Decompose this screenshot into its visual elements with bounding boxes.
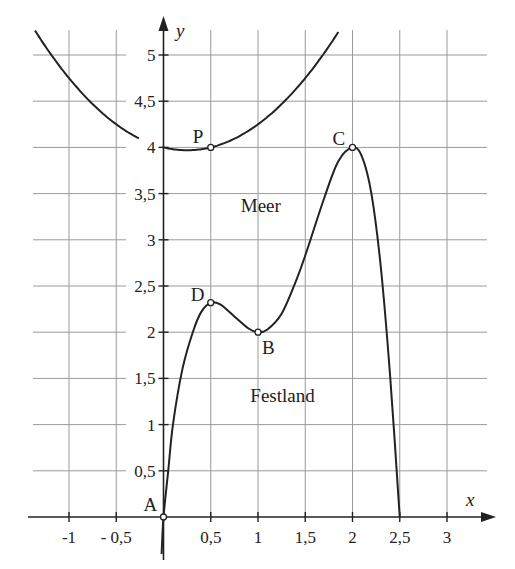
y-axis-arrow-icon (159, 16, 169, 31)
axes (28, 16, 496, 560)
y-tick-label: 4,5 (134, 92, 155, 111)
point-b (255, 329, 261, 335)
y-tick-label: 1,5 (134, 369, 155, 388)
y-tick-label: 5 (147, 46, 156, 65)
y-axis-label: y (174, 20, 185, 41)
x-tick-label: 2 (348, 528, 357, 547)
point-p (208, 144, 214, 150)
x-tick-label: 1 (254, 528, 263, 547)
x-tick-label: 2,5 (389, 528, 410, 547)
x-tick-label: -1 (62, 528, 76, 547)
x-axis-label: x (465, 489, 475, 510)
point-label-p: P (193, 126, 204, 147)
point-label-c: C (333, 128, 346, 149)
labels: -1- 0,50,511,522,530,511,522,533,544,55x… (62, 20, 475, 547)
y-tick-label: 3 (147, 231, 156, 250)
coordinate-diagram: -1- 0,50,511,522,530,511,522,533,544,55x… (0, 0, 515, 569)
point-label-b: B (262, 337, 275, 358)
x-tick-label: 3 (443, 528, 452, 547)
point-d (208, 300, 214, 306)
region-label-meer: Meer (241, 195, 282, 216)
point-c (350, 144, 356, 150)
y-tick-label: 2 (147, 323, 156, 342)
grid-lines (33, 30, 487, 517)
x-tick-label: 1,5 (295, 528, 316, 547)
point-label-d: D (191, 284, 205, 305)
parabola-curve (163, 32, 339, 150)
y-tick-label: 4 (147, 138, 156, 157)
y-tick-label: 3,5 (134, 185, 155, 204)
y-tick-label: 1 (147, 416, 156, 435)
region-label-festland: Festland (250, 385, 315, 406)
x-tick-label: 0,5 (200, 528, 221, 547)
y-tick-label: 2,5 (134, 277, 155, 296)
parabola-curve (35, 31, 139, 139)
point-a (161, 514, 167, 520)
x-tick-label: - 0,5 (101, 528, 132, 547)
point-label-a: A (144, 494, 158, 515)
curves (35, 31, 400, 554)
y-tick-label: 0,5 (134, 462, 155, 481)
x-axis-arrow-icon (481, 512, 496, 522)
